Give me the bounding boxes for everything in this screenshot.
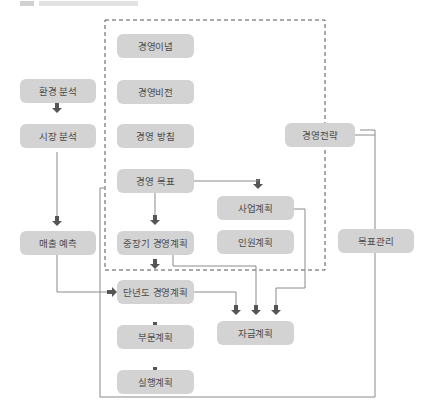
node-division-plan: 부문계획 bbox=[117, 325, 194, 349]
node-execution-plan: 실행계획 bbox=[117, 370, 194, 394]
connector-lines bbox=[0, 0, 428, 417]
node-hr-plan: 인원계획 bbox=[217, 230, 294, 254]
node-goal: 경영 목표 bbox=[117, 169, 194, 193]
node-policy: 경영 방침 bbox=[117, 124, 194, 148]
node-midterm-plan: 중장기 경영계획 bbox=[117, 231, 194, 255]
node-goal-management: 목표관리 bbox=[338, 229, 414, 253]
node-mission: 경영이념 bbox=[117, 34, 194, 58]
node-market-analysis: 시장 분석 bbox=[20, 124, 96, 148]
node-finance-plan: 자금계획 bbox=[217, 321, 294, 345]
node-annual-plan: 단년도 경영계획 bbox=[117, 280, 194, 304]
node-vision: 경영비전 bbox=[117, 80, 194, 104]
node-sales-forecast: 매출 예측 bbox=[20, 231, 96, 255]
node-env-analysis: 환경 분석 bbox=[20, 79, 96, 103]
node-strategy: 경영전략 bbox=[285, 123, 355, 147]
node-business-plan: 사업계획 bbox=[217, 196, 294, 220]
